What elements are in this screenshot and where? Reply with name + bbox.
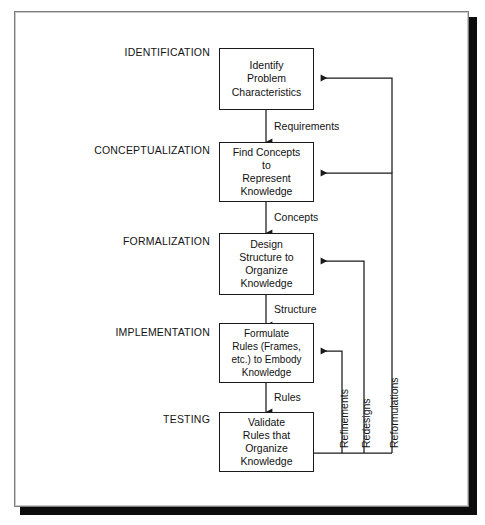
edge-label-requirements: Requirements: [274, 120, 339, 132]
edge-label-rules: Rules: [274, 391, 301, 403]
stage-label-identification: IDENTIFICATION: [30, 46, 210, 58]
process-box-implementation-line-2: Rules (Frames,: [231, 340, 301, 353]
process-box-formalization-line-4: Knowledge: [239, 277, 293, 290]
process-box-conceptualization[interactable]: Find Concepts to Represent Knowledge: [219, 142, 314, 202]
feedback-label-redesigns: Redesigns: [360, 398, 372, 448]
process-box-testing-line-1: Validate: [241, 416, 293, 429]
process-box-identification-line-3: Characteristics: [232, 86, 301, 99]
stage-label-implementation: IMPLEMENTATION: [20, 326, 210, 338]
process-box-testing-line-4: Knowledge: [241, 455, 293, 468]
process-box-conceptualization-line-1: Find Concepts: [233, 146, 301, 159]
process-box-testing-line-2: Rules that: [241, 429, 293, 442]
process-box-formalization-line-2: Structure to: [239, 251, 293, 264]
feedback-label-refinements: Refinements: [338, 389, 350, 448]
process-box-implementation[interactable]: Formulate Rules (Frames, etc.) to Embody…: [219, 323, 314, 383]
process-box-formalization-line-3: Organize: [239, 264, 293, 277]
process-box-identification[interactable]: Identify Problem Characteristics: [219, 48, 314, 110]
process-box-implementation-line-1: Formulate: [231, 327, 301, 340]
process-box-formalization-line-1: Design: [239, 238, 293, 251]
process-box-conceptualization-line-3: Represent: [233, 172, 301, 185]
process-box-testing-line-3: Organize: [241, 442, 293, 455]
process-box-implementation-line-4: Knowledge: [231, 366, 301, 379]
stage-label-conceptualization: CONCEPTUALIZATION: [10, 144, 210, 156]
process-box-conceptualization-line-2: to: [233, 159, 301, 172]
edge-label-structure: Structure: [274, 303, 317, 315]
process-box-identification-line-2: Problem: [232, 72, 301, 85]
feedback-path-reformulations-to-conceptualization: [321, 173, 392, 453]
process-box-formalization[interactable]: Design Structure to Organize Knowledge: [219, 233, 314, 295]
stage-label-formalization: FORMALIZATION: [30, 235, 210, 247]
stage-label-testing: TESTING: [50, 413, 210, 425]
edge-label-concepts: Concepts: [274, 211, 318, 223]
diagram-page: IDENTIFICATION CONCEPTUALIZATION FORMALI…: [0, 0, 485, 525]
process-box-testing[interactable]: Validate Rules that Organize Knowledge: [219, 412, 314, 472]
process-box-identification-line-1: Identify: [232, 59, 301, 72]
feedback-label-reformulations: Reformulations: [388, 377, 400, 448]
process-box-implementation-line-3: etc.) to Embody: [231, 353, 301, 366]
process-box-conceptualization-line-4: Knowledge: [233, 185, 301, 198]
